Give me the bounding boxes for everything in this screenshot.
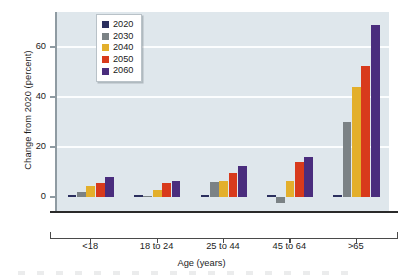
bar-2040-18 to 24 — [153, 190, 162, 198]
bar-2050-<18 — [96, 183, 105, 197]
legend-label: 2040 — [113, 42, 133, 54]
bar-2050-18 to 24 — [162, 183, 171, 197]
bar-2030-<18 — [77, 192, 86, 197]
bar-2040-25 to 44 — [219, 181, 228, 197]
bar-2040->65 — [352, 87, 361, 197]
legend-swatch-icon — [102, 44, 109, 51]
bar-2020-18 to 24 — [134, 195, 143, 197]
legend-label: 2050 — [113, 54, 133, 66]
bar-2020-25 to 44 — [201, 195, 210, 197]
x-axis-tick-mark — [223, 238, 224, 243]
bar-2030->65 — [343, 122, 352, 197]
bar-2060-<18 — [105, 177, 114, 197]
legend-label: 2060 — [113, 65, 133, 77]
bar-2040-45 to 64 — [286, 181, 295, 197]
x-axis-tick-mark — [90, 238, 91, 243]
x-axis-left-cap — [50, 232, 51, 239]
chart-figure: Change from 2020 (percent) 2020203020402… — [0, 0, 403, 276]
y-axis-tick-mark — [50, 146, 56, 148]
legend-label: 2020 — [113, 19, 133, 31]
x-axis-tick-mark — [356, 238, 357, 243]
y-axis-tick-label: 0 — [0, 191, 46, 201]
bar-2020-45 to 64 — [267, 195, 276, 197]
y-axis-tick-mark — [50, 196, 56, 198]
bar-group — [201, 12, 248, 212]
bar-2020->65 — [333, 195, 342, 197]
scan-artifact — [18, 271, 348, 275]
legend-swatch-icon — [102, 21, 109, 28]
legend-item-2050: 2050 — [102, 54, 133, 66]
x-axis-tick-mark — [289, 238, 290, 243]
legend-label: 2030 — [113, 31, 133, 43]
y-axis-tick-label: 60 — [0, 41, 46, 51]
bar-2030-45 to 64 — [276, 197, 285, 203]
y-axis-tick-mark — [50, 96, 56, 98]
y-axis-tick-label: 20 — [0, 141, 46, 151]
legend-item-2030: 2030 — [102, 31, 133, 43]
bar-group — [267, 12, 314, 212]
y-axis-tick-mark — [50, 46, 56, 48]
bar-2050->65 — [361, 66, 370, 197]
legend-swatch-icon — [102, 68, 109, 75]
bar-2060-45 to 64 — [304, 157, 313, 197]
x-axis-tick-mark — [157, 238, 158, 243]
legend-item-2060: 2060 — [102, 65, 133, 77]
legend-swatch-icon — [102, 33, 109, 40]
bar-2050-25 to 44 — [229, 173, 238, 197]
x-axis-title: Age (years) — [0, 258, 403, 268]
bar-2060->65 — [371, 25, 380, 198]
legend-item-2020: 2020 — [102, 19, 133, 31]
y-axis-tick-label: 40 — [0, 91, 46, 101]
bar-group — [333, 12, 380, 212]
legend-swatch-icon — [102, 56, 109, 63]
chart-legend: 20202030204020502060 — [96, 14, 142, 82]
bar-2060-18 to 24 — [172, 181, 181, 197]
bar-2030-25 to 44 — [210, 182, 219, 197]
bar-2030-18 to 24 — [143, 196, 152, 197]
bar-2020-<18 — [68, 195, 77, 197]
x-axis-right-cap — [397, 232, 398, 239]
legend-item-2040: 2040 — [102, 42, 133, 54]
bar-2060-25 to 44 — [238, 166, 247, 197]
bar-2040-<18 — [86, 186, 95, 197]
bar-2050-45 to 64 — [295, 162, 304, 197]
